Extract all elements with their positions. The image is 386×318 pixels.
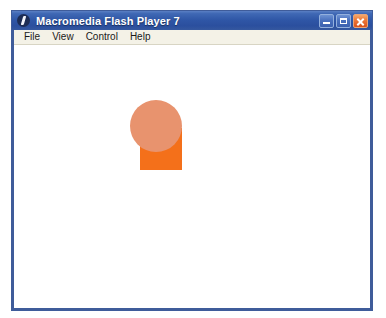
flash-stage[interactable] <box>14 45 370 308</box>
title-bar[interactable]: Macromedia Flash Player 7 <box>11 10 373 30</box>
menu-item-control[interactable]: Control <box>80 30 124 44</box>
minimize-button[interactable] <box>319 14 334 28</box>
menu-item-help[interactable]: Help <box>124 30 157 44</box>
maximize-button[interactable] <box>336 14 351 28</box>
menu-item-file[interactable]: File <box>18 30 46 44</box>
flash-logo-icon <box>17 14 30 27</box>
menu-item-view[interactable]: View <box>46 30 80 44</box>
window-title: Macromedia Flash Player 7 <box>36 15 180 27</box>
close-button[interactable] <box>353 14 368 28</box>
salmon-circle-shape <box>130 100 182 152</box>
menu-bar: File View Control Help <box>14 30 370 45</box>
flash-player-window: Macromedia Flash Player 7 File View Cont… <box>11 10 373 311</box>
window-controls <box>319 14 370 28</box>
